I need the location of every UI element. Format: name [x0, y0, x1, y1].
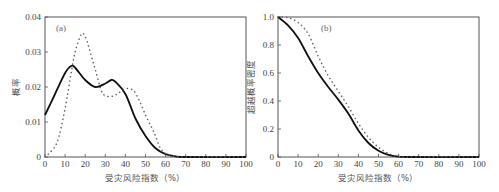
x-tick-label: 0 — [276, 159, 281, 169]
y-tick-label: 0.6 — [263, 68, 275, 78]
x-tick-label: 50 — [374, 159, 384, 169]
y-axis-label-b: 超越概率密度 — [246, 60, 256, 114]
panel-label-a: (a) — [56, 23, 66, 33]
y-tick-label: 0.04 — [25, 12, 41, 22]
x-tick-label: 20 — [314, 159, 324, 169]
y-tick-label: 0 — [270, 152, 275, 162]
x-tick-label: 70 — [414, 159, 424, 169]
x-tick-label: 100 — [239, 159, 253, 169]
x-tick-label: 90 — [221, 159, 231, 169]
series-solid-line — [278, 17, 479, 157]
x-tick-label: 50 — [141, 159, 151, 169]
x-tick-label: 30 — [334, 159, 344, 169]
x-tick-label: 90 — [454, 159, 464, 169]
y-tick-label: 0.03 — [25, 47, 41, 57]
x-tick-label: 80 — [434, 159, 444, 169]
y-tick-label: 0 — [37, 152, 42, 162]
x-tick-label: 60 — [394, 159, 404, 169]
y-axis-label-a: 概率 — [11, 78, 21, 96]
y-tick-label: 1.0 — [263, 12, 275, 22]
y-tick-label: 0.4 — [263, 96, 275, 106]
x-tick-label: 80 — [201, 159, 211, 169]
panel-label-b: (b) — [321, 23, 332, 33]
x-tick-label: 30 — [101, 159, 111, 169]
x-tick-label: 40 — [354, 159, 364, 169]
x-tick-label: 100 — [472, 159, 486, 169]
series-dotted-line — [45, 33, 246, 157]
chart-panel-b: 0102030405060708090100 00.20.40.60.81.0 … — [246, 12, 486, 183]
y-tick-label: 0.02 — [25, 82, 41, 92]
y-tick-label: 0.2 — [263, 124, 274, 134]
plot-area-b — [278, 17, 479, 157]
y-tick-label: 0.01 — [25, 117, 41, 127]
y-tick-label: 0.8 — [263, 40, 275, 50]
x-tick-label: 60 — [161, 159, 171, 169]
x-tick-label: 20 — [81, 159, 91, 169]
x-axis-label-b: 受灾风险指数（%） — [338, 173, 418, 183]
series-dotted-line — [278, 17, 479, 157]
figure: 0102030405060708090100 00.010.020.030.04… — [0, 0, 499, 192]
x-tick-label: 40 — [121, 159, 131, 169]
chart-panel-a: 0102030405060708090100 00.010.020.030.04… — [11, 12, 253, 183]
series-b — [278, 17, 479, 157]
series-a — [45, 33, 246, 157]
x-tick-label: 10 — [61, 159, 71, 169]
x-tick-label: 70 — [181, 159, 191, 169]
x-tick-label: 0 — [43, 159, 48, 169]
series-solid-line — [45, 66, 246, 158]
x-tick-label: 10 — [294, 159, 304, 169]
x-axis-label-a: 受灾风险指数（%） — [105, 173, 185, 183]
